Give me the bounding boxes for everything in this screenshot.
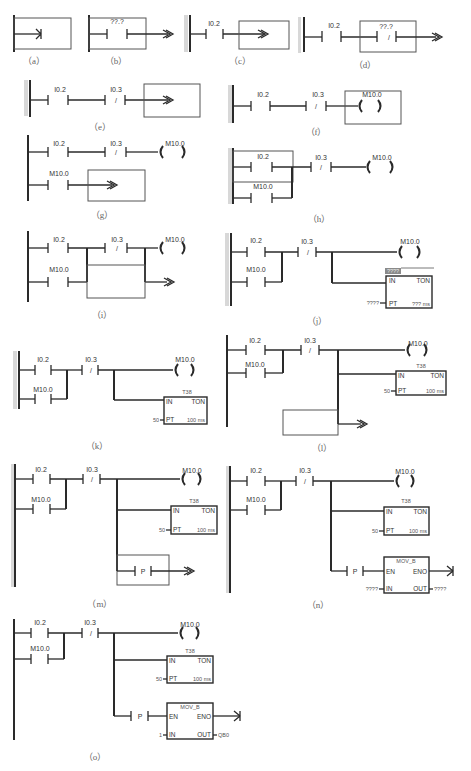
move-out-pin: OUT: [413, 585, 427, 592]
coil-label: M10.0: [372, 154, 392, 161]
timer-type: TON: [430, 372, 444, 379]
contact3-label: M10.0: [253, 183, 273, 190]
caption-i: （i）: [92, 310, 113, 320]
contact3-label: M10.0: [246, 496, 266, 503]
panel-f: / I0.2 I0.3 M10.0 （f）: [228, 85, 401, 137]
timer-in-pin: IN: [398, 372, 405, 379]
timer-pt-value: 50: [153, 417, 159, 423]
nc-slash: /: [115, 97, 117, 104]
coil-label: M10.0: [408, 340, 428, 347]
panel-g: / I0.2 I0.3 M10.0 M10.0 （g）: [28, 135, 185, 220]
timer-pt-value: 50: [372, 528, 378, 534]
contact2-label: ??.?: [379, 23, 393, 30]
contact3-label: M10.0: [246, 266, 266, 273]
caption-e: （e）: [89, 122, 111, 132]
move-eno-pin: ENO: [197, 713, 211, 720]
contact1-label: I0.2: [257, 153, 269, 160]
caption-l: （l）: [312, 443, 333, 453]
contact1-label: I0.2: [53, 236, 65, 243]
contact2-label: I0.3: [312, 91, 324, 98]
contact3-label: M10.0: [30, 645, 50, 652]
timer-base: 100 ms: [193, 676, 211, 682]
contact2-label: I0.3: [299, 467, 311, 474]
nc-slash: /: [91, 476, 93, 483]
contact2-label: I0.3: [110, 86, 122, 93]
timer-base: 100 ms: [187, 417, 205, 423]
caption-b: （b）: [105, 56, 128, 66]
contact2-label: I0.3: [304, 337, 316, 344]
contact1-label: I0.2: [249, 337, 261, 344]
nc-slash: /: [309, 347, 311, 354]
timer-pt-pin: PT: [166, 416, 174, 423]
timer-name: T38: [182, 389, 191, 395]
coil-label: M10.0: [395, 468, 415, 475]
nc-slash: /: [304, 478, 306, 485]
timer-base: 100 ms: [409, 528, 427, 534]
timer-pt-pin: PT: [389, 300, 397, 307]
timer-pt-pin: PT: [386, 527, 394, 534]
timer-base: 100 ms: [197, 527, 215, 533]
nc-slash: /: [320, 164, 322, 171]
contact1-label: I0.2: [250, 467, 262, 474]
nc-slash: /: [388, 34, 390, 41]
move-in-value: ????: [366, 586, 378, 592]
contact3-label: M10.0: [49, 266, 69, 273]
timer-in-pin: IN: [169, 657, 176, 664]
nc-slash: /: [90, 630, 92, 637]
timer-name: T38: [416, 363, 425, 369]
contact1-label: I0.2: [53, 140, 65, 147]
timer-pt-value: 50: [384, 388, 390, 394]
coil-left: [360, 100, 363, 112]
move-out-value: QB0: [218, 732, 229, 738]
panel-d: / I0.2 ??.? （d）: [298, 17, 442, 70]
timer-type: TON: [413, 508, 427, 515]
contact2-label: I0.3: [315, 154, 327, 161]
panel-n: / T38 IN TON PT 100 ms 50 P MOV_B EN ENO…: [226, 466, 453, 610]
timer-pt-value: 50: [159, 527, 165, 533]
move-en-pin: EN: [386, 568, 395, 575]
coil-label: M10.0: [182, 467, 202, 474]
contact1-label: I0.2: [257, 91, 269, 98]
panel-j: / ???? IN TON PT ??? ms ???? I0.2 I0.3 M…: [225, 233, 434, 326]
timer-pt-pin: PT: [173, 526, 181, 533]
contact2-label: I0.3: [84, 619, 96, 626]
caption-n: （n）: [307, 600, 330, 610]
move-in-value: 1: [159, 732, 162, 738]
timer-type: TON: [191, 398, 205, 405]
contact1-label: I0.2: [250, 237, 262, 244]
contact1-label: I0.2: [34, 619, 46, 626]
coil-right: [378, 100, 381, 112]
move-out-value: ????: [434, 586, 446, 592]
coil-label: M10.0: [400, 238, 420, 245]
move-in-pin: IN: [169, 731, 176, 738]
timer-pt-pin: PT: [169, 675, 177, 682]
panel-l: / T38 IN TON PT 100 ms 50 I0.2 I0.3 M10.…: [227, 335, 446, 453]
panel-h: / I0.2 I0.3 M10.0 M10.0 （h）: [228, 148, 393, 224]
nc-slash: /: [115, 149, 117, 156]
timer-pt-value: ????: [367, 300, 379, 306]
caption-a: （a）: [23, 56, 45, 66]
coil-label: M10.0: [175, 356, 195, 363]
coil-label: M10.0: [165, 140, 185, 147]
coil-label: M10.0: [165, 236, 185, 243]
timer-in-pin: IN: [389, 277, 396, 284]
contact2-label: I0.3: [110, 140, 122, 147]
panel-a: （a）: [14, 15, 71, 66]
coil-label: M10.0: [180, 621, 200, 628]
caption-f: （f）: [306, 127, 327, 137]
timer-type: TON: [201, 507, 215, 514]
timer-name: ????: [387, 268, 399, 274]
positive-edge-label: P: [138, 713, 143, 720]
timer-base: 100 ms: [426, 388, 444, 394]
timer-in-pin: IN: [166, 398, 173, 405]
panel-b: ??.? （b）: [89, 15, 173, 66]
timer-base: ??? ms: [412, 301, 430, 307]
caption-d: （d）: [354, 60, 377, 70]
caption-c: （c）: [229, 56, 251, 66]
timer-name: T38: [185, 648, 194, 654]
contact1-label: I0.2: [328, 22, 340, 29]
timer-type: TON: [416, 277, 430, 284]
timer-type: TON: [197, 657, 211, 664]
caption-j: （j）: [307, 316, 328, 326]
contact3-label: M10.0: [31, 496, 51, 503]
